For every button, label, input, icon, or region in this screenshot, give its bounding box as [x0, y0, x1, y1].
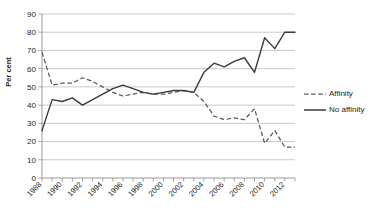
legend-item-affinity: Affinity: [304, 86, 380, 102]
y-tick-label: 30: [27, 119, 36, 128]
x-tick-label: 1990: [45, 180, 63, 198]
series-line-no-affinity: [42, 32, 295, 130]
legend-label-no-affinity: No affinity: [329, 106, 364, 114]
y-tick-label: 80: [27, 28, 36, 37]
axis-lines: [42, 14, 295, 178]
y-tick-label: 60: [27, 65, 36, 74]
x-tick-label: 2006: [207, 180, 225, 198]
y-tick-label: 70: [27, 46, 36, 55]
data-series: [42, 32, 295, 147]
y-tick-label: 90: [27, 10, 36, 19]
series-line-affinity: [42, 52, 295, 147]
legend-swatch-solid: [304, 105, 326, 115]
y-tick-label: 20: [27, 137, 36, 146]
x-tick-label: 1994: [86, 180, 104, 198]
x-tick-label: 2004: [187, 180, 205, 198]
y-tick-label: 40: [27, 101, 36, 110]
legend-label-affinity: Affinity: [329, 90, 353, 98]
x-axis-ticks: [42, 178, 295, 182]
y-tick-label: 50: [27, 83, 36, 92]
x-tick-label: 1992: [66, 180, 84, 198]
x-tick-label: 2000: [147, 180, 165, 198]
y-axis-ticks: 0102030405060708090: [27, 10, 42, 183]
x-tick-label: 2008: [227, 180, 245, 198]
gridlines: [42, 14, 295, 160]
x-tick-label: 2012: [268, 180, 286, 198]
legend-swatch-dashed: [304, 89, 326, 99]
x-tick-label: 1998: [126, 180, 144, 198]
x-tick-label: 1988: [25, 180, 43, 198]
x-tick-label: 2010: [248, 180, 266, 198]
x-axis-tick-labels: 1988199019921994199619982000200220042006…: [25, 180, 286, 198]
legend-item-no-affinity: No affinity: [304, 102, 380, 118]
x-tick-label: 1996: [106, 180, 124, 198]
x-tick-label: 2002: [167, 180, 185, 198]
chart-legend: Affinity No affinity: [304, 86, 380, 118]
y-tick-label: 10: [27, 156, 36, 165]
line-chart: Per cent 0102030405060708090 19881990199…: [0, 0, 380, 217]
